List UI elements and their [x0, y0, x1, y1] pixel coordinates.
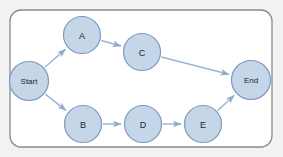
node-e[interactable]: E: [185, 106, 222, 143]
node-a[interactable]: A: [64, 17, 101, 54]
node-start[interactable]: Start: [10, 62, 49, 101]
node-b[interactable]: B: [65, 106, 102, 143]
node-circle-end[interactable]: [232, 61, 271, 100]
node-circle-b[interactable]: [65, 106, 102, 143]
node-d[interactable]: D: [125, 106, 162, 143]
node-circle-a[interactable]: [64, 17, 101, 54]
diagram-canvas: StartACBDEEnd: [0, 0, 283, 157]
node-circle-c[interactable]: [124, 34, 161, 71]
node-end[interactable]: End: [232, 61, 271, 100]
node-circle-e[interactable]: [185, 106, 222, 143]
node-circle-d[interactable]: [125, 106, 162, 143]
node-c[interactable]: C: [124, 34, 161, 71]
node-circle-start[interactable]: [10, 62, 49, 101]
flowchart-diagram: StartACBDEEnd: [0, 0, 283, 157]
